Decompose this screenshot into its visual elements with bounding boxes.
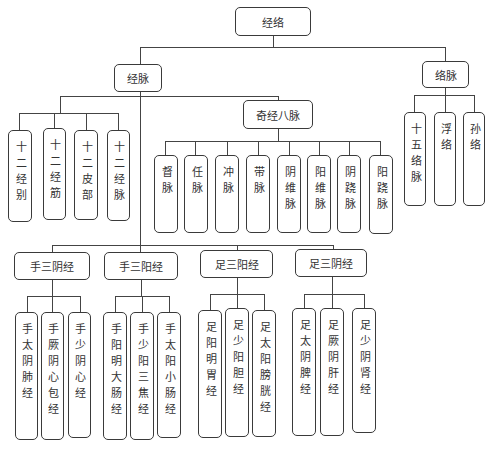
connector <box>140 47 446 48</box>
node-label: 足太阴脾经 <box>299 319 310 399</box>
connector <box>414 95 415 112</box>
connector <box>19 113 119 114</box>
connector <box>474 95 475 112</box>
node-shou-jueyin-xinbao: 手厥阴心包经 <box>41 312 64 440</box>
node-chongmai: 冲脉 <box>215 155 239 233</box>
node-yinqiaomai: 阴跷脉 <box>337 155 361 233</box>
connector <box>52 245 334 246</box>
node-zu-yangming-wei: 足阳明胃经 <box>198 310 222 438</box>
node-label: 足少阳胆经 <box>232 319 243 399</box>
connector <box>80 296 81 312</box>
node-shou-yangming-dachang: 手阳明大肠经 <box>103 312 127 440</box>
connector <box>140 92 141 252</box>
connector <box>349 141 350 155</box>
node-label: 阴跷脉 <box>344 166 355 214</box>
connector <box>332 277 333 294</box>
connector <box>165 141 166 155</box>
connector <box>304 294 365 295</box>
node-label: 手三阳经 <box>119 258 163 274</box>
node-zu-sanyang: 足三阳经 <box>200 250 273 278</box>
connector <box>140 47 141 64</box>
connector <box>169 296 170 312</box>
node-label: 足太阳膀胱经 <box>259 321 270 417</box>
connector <box>54 113 55 128</box>
connector <box>273 36 274 47</box>
node-zu-taiyin-pi: 足太阴脾经 <box>292 308 316 436</box>
node-shou-taiyang-xiaochang: 手太阳小肠经 <box>157 312 181 438</box>
node-label: 足三阴经 <box>309 255 353 271</box>
node-shou-shaoyin-xin: 手少阴心经 <box>68 312 91 438</box>
node-luomai: 络脉 <box>422 61 469 88</box>
connector <box>141 280 142 296</box>
connector <box>195 141 196 155</box>
node-sunluo: 孙络 <box>463 112 485 206</box>
node-label: 十二经脉 <box>113 141 124 205</box>
node-label: 冲脉 <box>222 166 233 198</box>
connector <box>210 294 211 310</box>
node-zu-jueyin-gan: 足厥阴肝经 <box>320 308 344 436</box>
connector <box>115 296 116 312</box>
node-label: 手少阴心经 <box>74 323 85 403</box>
node-label: 阴维脉 <box>284 166 295 214</box>
node-yinweimai: 阴维脉 <box>277 155 301 233</box>
connector <box>142 296 143 312</box>
node-zu-shaoyin-shen: 足少阴肾经 <box>352 308 376 433</box>
connector <box>237 278 238 294</box>
node-label: 十二经别 <box>15 141 26 205</box>
connector <box>445 88 446 95</box>
connector <box>19 113 20 130</box>
connector <box>60 96 279 97</box>
connector <box>86 113 87 130</box>
node-renmai: 任脉 <box>184 155 208 233</box>
node-label: 手三阴经 <box>30 258 74 274</box>
node-label: 奇经八脉 <box>256 107 300 123</box>
connector <box>319 141 320 155</box>
node-root: 经络 <box>235 7 311 36</box>
connector <box>237 294 238 308</box>
node-shou-shaoyang-sanjiao: 手少阳三焦经 <box>130 312 154 440</box>
node-label: 足厥阴肝经 <box>327 319 338 399</box>
meridian-tree-diagram: 经络 经脉 络脉 十二经别 十二经筋 十二皮部 十二经脉 奇经八脉 督脉 任脉 … <box>0 0 491 453</box>
node-twelve-jingmai: 十二经脉 <box>107 130 130 221</box>
node-qijing-bamai: 奇经八脉 <box>243 100 313 129</box>
node-label: 十二经筋 <box>49 139 60 203</box>
node-label: 经脉 <box>127 70 149 86</box>
connector <box>52 296 53 312</box>
node-label: 浮络 <box>440 123 451 155</box>
connector <box>304 294 305 308</box>
node-label: 带脉 <box>253 166 264 198</box>
node-label: 手太阳小肠经 <box>164 323 175 419</box>
node-label: 十二皮部 <box>81 141 92 205</box>
connector <box>445 47 446 61</box>
node-zu-taiyang-pangguang: 足太阳膀胱经 <box>252 310 276 437</box>
connector <box>52 245 53 252</box>
node-label: 督脉 <box>161 166 172 198</box>
node-jingmai: 经脉 <box>114 64 162 92</box>
node-twelve-jingjin: 十二经筋 <box>43 128 66 220</box>
node-label: 络脉 <box>435 67 457 83</box>
node-label: 孙络 <box>469 123 480 155</box>
connector <box>227 141 228 155</box>
node-label: 阳维脉 <box>314 166 325 214</box>
connector <box>364 294 365 308</box>
node-shou-sanyin: 手三阴经 <box>14 252 90 280</box>
node-label: 阳跷脉 <box>376 166 387 214</box>
node-shiwu-luomai: 十五络脉 <box>404 112 426 206</box>
node-yangqiaomai: 阳跷脉 <box>369 155 393 234</box>
node-label: 手厥阴心包经 <box>47 323 58 419</box>
node-label: 经络 <box>262 14 284 30</box>
node-zu-shaoyang-dan: 足少阳胆经 <box>225 308 249 437</box>
connector <box>380 141 381 155</box>
node-daimai: 带脉 <box>246 155 270 233</box>
node-label: 手少阳三焦经 <box>137 323 148 419</box>
node-fuluo: 浮络 <box>434 112 456 206</box>
connector <box>258 141 259 155</box>
node-label: 足少阴肾经 <box>359 319 370 399</box>
node-label: 足三阳经 <box>215 256 259 272</box>
node-dumai: 督脉 <box>154 155 178 233</box>
node-twelve-pibu: 十二皮部 <box>74 130 98 220</box>
connector <box>264 294 265 310</box>
connector <box>52 280 53 296</box>
node-label: 手太阴肺经 <box>21 323 32 403</box>
connector <box>118 113 119 130</box>
